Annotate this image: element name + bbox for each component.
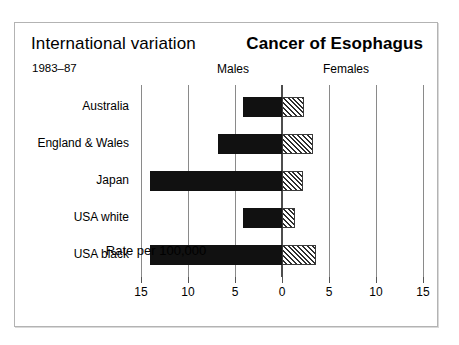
figure-title-right: Cancer of Esophagus (246, 34, 423, 54)
axis-tick-label: 5 (326, 285, 333, 299)
category-label: Japan (96, 173, 129, 187)
chart-row: Australia (141, 97, 423, 117)
gridline (423, 85, 424, 277)
chart-row: USA white (141, 208, 423, 228)
axis-tick-label: 15 (416, 285, 429, 299)
axis-tick (329, 277, 330, 283)
x-axis-caption: Rate per 100,000 (106, 243, 206, 258)
group-label-males: Males (217, 62, 249, 76)
axis-tick (282, 277, 283, 283)
chart-figure-frame: International variation Cancer of Esopha… (14, 22, 438, 327)
chart-row: England & Wales (141, 134, 423, 154)
axis-tick-label: 10 (369, 285, 382, 299)
bar-males (218, 134, 282, 154)
axis-tick (376, 277, 377, 283)
bar-females (282, 171, 303, 191)
figure-title-left: International variation (31, 34, 196, 54)
category-label: USA white (74, 210, 129, 224)
chart-row: Japan (141, 171, 423, 191)
axis-tick (188, 277, 189, 283)
group-label-females: Females (323, 62, 369, 76)
axis-tick-label: 15 (134, 285, 147, 299)
axis-tick (423, 277, 424, 283)
axis-tick-label: 5 (232, 285, 239, 299)
bar-females (282, 245, 316, 265)
bar-females (282, 208, 295, 228)
bar-females (282, 97, 304, 117)
bar-males (150, 171, 282, 191)
category-label: England & Wales (37, 136, 129, 150)
axis-tick-label: 10 (181, 285, 194, 299)
screenshot-canvas: International variation Cancer of Esopha… (0, 0, 459, 345)
category-label: Australia (82, 99, 129, 113)
axis-tick (235, 277, 236, 283)
bar-females (282, 134, 313, 154)
figure-subtitle-years: 1983–87 (32, 62, 77, 74)
axis-tick-label: 0 (279, 285, 286, 299)
axis-tick (141, 277, 142, 283)
bar-males (243, 208, 282, 228)
bar-males (243, 97, 282, 117)
